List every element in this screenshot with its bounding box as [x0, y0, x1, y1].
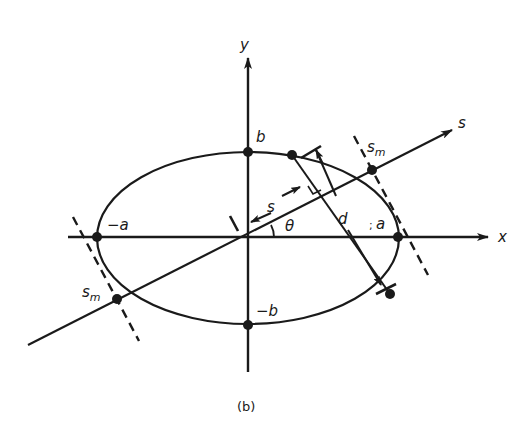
y-axis-label: y	[239, 36, 250, 54]
point-sm-upper	[367, 165, 377, 175]
point-neg-b	[243, 320, 253, 330]
s-endcap	[230, 216, 238, 231]
point-chord-lower	[385, 289, 395, 299]
tangent-line-lower	[73, 217, 139, 341]
label-a-mark: ;	[369, 219, 373, 232]
label-sm-upper: sm	[367, 138, 386, 159]
x-axis-label: x	[497, 228, 507, 246]
s-dimension-right	[282, 187, 300, 196]
label-theta: θ	[285, 217, 294, 235]
figure-caption: (b)	[237, 399, 255, 414]
ellipse-projection-diagram: y x s b −b ; a −a θ s d sm sm (b)	[0, 0, 530, 428]
label-s-distance: s	[267, 198, 275, 216]
point-a	[393, 232, 403, 242]
point-sm-lower	[112, 294, 122, 304]
label-d: d	[338, 210, 348, 228]
theta-arc	[271, 225, 274, 237]
label-a: a	[376, 215, 385, 233]
point-chord-upper	[287, 150, 297, 160]
label-b: b	[256, 128, 266, 146]
tangent-line-upper	[354, 136, 428, 275]
s-axis-label: s	[458, 114, 466, 132]
label-sm-lower: sm	[82, 283, 101, 304]
point-neg-a	[92, 232, 102, 242]
point-b	[243, 147, 253, 157]
d-dimension-lower	[348, 230, 381, 285]
label-neg-a: −a	[107, 216, 129, 234]
label-neg-b: −b	[256, 302, 278, 320]
